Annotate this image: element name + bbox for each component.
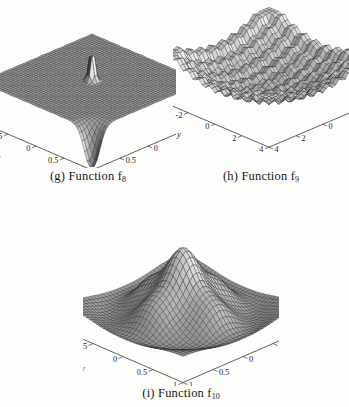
svg-text:0: 0 <box>249 355 253 364</box>
surface-plot-h-canvas: -4-2024420-2-4yx0006004002000 <box>173 2 349 168</box>
surface-plot-g: -1-0.500.5110.50-0.5-1yx1e-105e-110-5e-1… <box>0 2 176 168</box>
surface-plot-i-canvas: -1-0.500.5110.50-0.5-1yx200150100500-50-… <box>83 196 279 386</box>
svg-text:-2: -2 <box>176 111 183 120</box>
surface-plot-i: -1-0.500.5110.50-0.5-1yx200150100500-50-… <box>83 196 279 386</box>
svg-text:0.5: 0.5 <box>219 368 229 377</box>
figure-panel-g: -1-0.500.5110.50-0.5-1yx1e-105e-110-5e-1… <box>0 2 176 187</box>
svg-text:0: 0 <box>329 122 333 131</box>
figure-panel-i: -1-0.500.5110.50-0.5-1yx200150100500-50-… <box>83 196 279 404</box>
svg-text:-0.5: -0.5 <box>0 132 2 141</box>
svg-text:y: y <box>0 152 1 162</box>
figure-panel-h: -4-2024420-2-4yx0006004002000 (h) Functi… <box>173 2 349 187</box>
svg-text:y: y <box>83 363 85 373</box>
caption-i: (i) Function f10 <box>83 386 279 401</box>
svg-text:0.5: 0.5 <box>48 156 58 165</box>
svg-text:4: 4 <box>275 145 279 154</box>
caption-h-text: (h) Function f <box>223 169 295 183</box>
surface-plot-g-canvas: -1-0.500.5110.50-0.5-1yx1e-105e-110-5e-1… <box>0 2 176 168</box>
svg-text:0.5: 0.5 <box>137 368 147 377</box>
svg-text:0: 0 <box>26 144 30 153</box>
caption-i-text: (i) Function f <box>142 386 211 400</box>
svg-text:y: y <box>176 129 181 139</box>
caption-g-subscript: 8 <box>122 175 126 184</box>
svg-text:2: 2 <box>302 134 306 143</box>
caption-h-subscript: 9 <box>295 175 299 184</box>
caption-i-subscript: 10 <box>212 392 220 401</box>
svg-text:2: 2 <box>232 134 236 143</box>
caption-g-text: (g) Function f <box>50 169 122 183</box>
svg-text:0: 0 <box>154 144 158 153</box>
svg-text:1: 1 <box>173 381 177 386</box>
svg-text:0: 0 <box>205 122 209 131</box>
svg-text:0.5: 0.5 <box>126 156 136 165</box>
caption-h: (h) Function f9 <box>173 169 349 184</box>
surface-plot-h: -4-2024420-2-4yx0006004002000 <box>173 2 349 168</box>
svg-text:0: 0 <box>113 355 117 364</box>
svg-text:4: 4 <box>259 145 263 154</box>
caption-g: (g) Function f8 <box>0 169 176 184</box>
svg-text:1: 1 <box>189 381 193 386</box>
svg-text:-0.5: -0.5 <box>83 342 87 351</box>
figure-sheet: -1-0.500.5110.50-0.5-1yx1e-105e-110-5e-1… <box>0 0 349 407</box>
